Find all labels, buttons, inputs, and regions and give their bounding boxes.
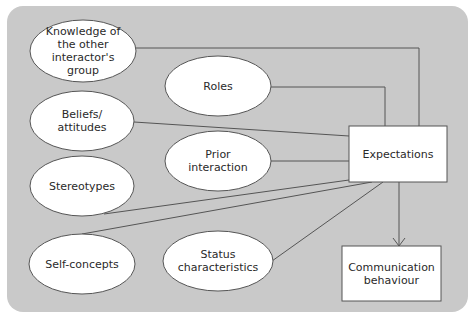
node-label-status: Status characteristics: [173, 231, 263, 291]
node-label-stereotypes: Stereotypes: [40, 156, 124, 216]
node-label-expectations: Expectations: [355, 126, 441, 182]
node-label-prior: Prior interaction: [175, 131, 261, 191]
node-label-self: Self-concepts: [39, 234, 125, 294]
node-label-communication: Communication behaviour: [348, 246, 435, 301]
node-label-beliefs: Beliefs/ attitudes: [40, 91, 124, 151]
node-label-roles: Roles: [175, 56, 261, 116]
node-label-knowledge: Knowledge of the other interactor's grou…: [40, 20, 126, 82]
edge-roles-to-expectations: [271, 87, 385, 126]
